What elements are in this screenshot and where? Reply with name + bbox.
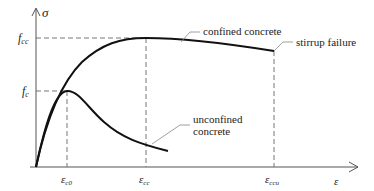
eccu-label: εccu: [265, 173, 280, 187]
stirrup-annotation: stirrup failure: [296, 36, 356, 48]
x-axis-label: ε: [334, 175, 339, 187]
stress-strain-diagram: σ ε fcc fc εc0 εcc εccu confined concret…: [0, 0, 374, 191]
fcc-label: fcc: [18, 31, 29, 46]
ec0-label: εc0: [61, 173, 72, 187]
fc-label: fc: [22, 84, 29, 99]
y-axis-label: σ: [42, 5, 49, 20]
unconfined-curve: [36, 91, 168, 167]
unconfined-leader: [152, 125, 190, 144]
confined-annotation: confined concrete: [203, 25, 282, 37]
unconfined-annotation-line2: concrete: [193, 125, 230, 137]
stirrup-leader: [274, 42, 293, 51]
unconfined-annotation-line1: unconfined: [193, 113, 243, 125]
ecc-label: εcc: [139, 173, 150, 187]
